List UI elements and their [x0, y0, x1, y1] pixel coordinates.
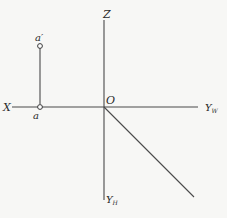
projection-diagram: Z X O a′ a YW YH [0, 0, 227, 218]
label-yw-sub: W [212, 107, 219, 114]
diagonal-aux-line [104, 107, 194, 197]
label-a: a [33, 110, 39, 121]
label-x: X [2, 101, 12, 114]
label-yh-sub: H [112, 199, 119, 206]
label-yw: YW [205, 102, 219, 114]
label-origin: O [106, 94, 115, 107]
label-a-prime: a′ [35, 32, 44, 43]
label-z: Z [102, 8, 111, 21]
label-yh: YH [106, 194, 119, 206]
point-a-prime [38, 44, 43, 49]
point-a [38, 105, 43, 110]
